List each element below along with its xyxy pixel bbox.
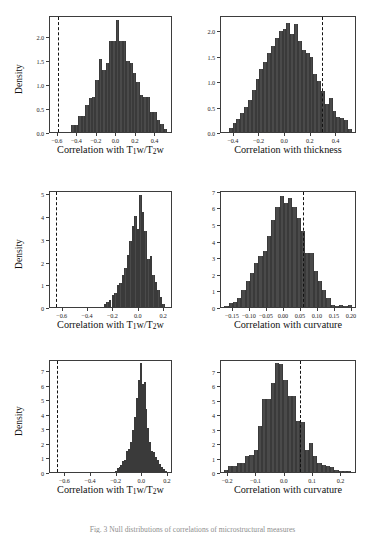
y-tick-label: 0.5 <box>23 106 44 113</box>
y-tick-mark <box>217 308 220 309</box>
x-tick-label: −0.6 <box>56 312 67 319</box>
y-tick-label: 0.0 <box>23 130 44 137</box>
panel-top-right: −0.4−0.20.00.20.40.00.51.01.52.0Correlat… <box>192 0 385 175</box>
histogram-bar <box>348 129 352 132</box>
y-tick-label: 4 <box>23 411 44 418</box>
panel-bottom-right: −0.2−0.10.00.10.201234567Correlation wit… <box>192 350 385 512</box>
y-tick-label: 4 <box>194 412 215 419</box>
y-tick-mark <box>46 444 49 445</box>
y-tick-label: 0 <box>194 470 215 477</box>
y-tick-label: 0 <box>194 305 215 312</box>
histogram-bar <box>348 305 352 307</box>
y-axis-title: Density <box>13 64 24 94</box>
x-tick-label: 0.0 <box>280 477 287 484</box>
y-tick-mark <box>46 371 49 372</box>
x-axis-title: Correlation with T1w/T2w <box>57 319 164 330</box>
y-tick-label: 2 <box>23 440 44 447</box>
y-tick-label: 4 <box>194 238 215 245</box>
y-tick-mark <box>46 458 49 459</box>
x-tick-mark <box>317 308 318 311</box>
x-tick-label: 0.0 <box>112 137 119 144</box>
x-tick-label: −0.2 <box>253 137 264 144</box>
y-tick-mark <box>217 258 220 259</box>
y-tick-label: 2 <box>23 259 44 266</box>
x-tick-label: −0.15 <box>225 312 239 319</box>
x-tick-mark <box>112 308 113 311</box>
x-tick-mark <box>62 308 63 311</box>
y-tick-label: 2.0 <box>23 34 44 41</box>
y-tick-mark <box>217 133 220 134</box>
y-tick-label: 1.5 <box>194 53 215 60</box>
y-axis-title: Density <box>13 239 24 269</box>
y-tick-mark <box>46 429 49 430</box>
y-tick-label: 5 <box>23 397 44 404</box>
x-tick-mark <box>266 308 267 311</box>
y-tick-label: 0.5 <box>194 104 215 111</box>
x-tick-mark <box>87 308 88 311</box>
x-tick-label: −0.6 <box>59 477 70 484</box>
y-tick-mark <box>46 263 49 264</box>
x-tick-label: 0.20 <box>346 312 356 319</box>
y-tick-label: 5 <box>194 222 215 229</box>
x-tick-label: 0.10 <box>312 312 322 319</box>
y-tick-mark <box>46 217 49 218</box>
y-tick-mark <box>46 308 49 309</box>
x-tick-mark <box>334 308 335 311</box>
y-tick-mark <box>46 133 49 134</box>
x-tick-mark <box>312 473 313 476</box>
x-tick-label: −0.10 <box>242 312 256 319</box>
histogram-bars <box>50 361 171 472</box>
plot-area-middle-left <box>49 191 172 308</box>
y-tick-mark <box>217 108 220 109</box>
y-tick-mark <box>217 430 220 431</box>
y-tick-label: 0 <box>23 470 44 477</box>
x-tick-mark <box>138 308 139 311</box>
x-tick-label: 0.0 <box>134 312 141 319</box>
y-tick-label: 0 <box>23 305 44 312</box>
x-axis-title: Correlation with curvature <box>234 319 342 330</box>
x-tick-label: 0.0 <box>138 477 145 484</box>
x-tick-mark <box>90 473 91 476</box>
x-tick-label: 0.05 <box>295 312 305 319</box>
x-tick-mark <box>64 473 65 476</box>
x-tick-label: −0.6 <box>51 137 62 144</box>
figure-panel-grid: −0.6−0.4−0.20.00.20.40.00.51.01.52.0Corr… <box>0 0 385 533</box>
x-tick-mark <box>76 133 77 136</box>
histogram-bars <box>221 361 355 472</box>
x-tick-mark <box>284 473 285 476</box>
y-tick-label: 1.0 <box>23 82 44 89</box>
y-tick-mark <box>217 275 220 276</box>
y-tick-mark <box>217 82 220 83</box>
x-tick-mark <box>163 308 164 311</box>
y-tick-label: 3 <box>194 426 215 433</box>
y-tick-label: 3 <box>23 236 44 243</box>
x-axis-title: Correlation with T1w/T2w <box>57 144 164 155</box>
x-tick-label: −0.1 <box>250 477 261 484</box>
y-tick-mark <box>217 459 220 460</box>
x-tick-mark <box>340 473 341 476</box>
histogram-bar <box>162 304 165 307</box>
x-axis-title: Correlation with thickness <box>234 144 342 155</box>
y-tick-mark <box>46 85 49 86</box>
x-tick-label: −0.2 <box>222 477 233 484</box>
y-tick-mark <box>217 444 220 445</box>
histogram-bar <box>165 471 167 472</box>
y-tick-label: 7 <box>194 368 215 375</box>
y-tick-mark <box>217 386 220 387</box>
y-tick-label: 7 <box>194 188 215 195</box>
histogram-bars <box>50 192 171 307</box>
x-tick-mark <box>167 473 168 476</box>
observed-value-line <box>56 192 57 307</box>
x-tick-mark <box>310 133 311 136</box>
x-tick-label: 0.2 <box>163 477 170 484</box>
y-tick-label: 2.0 <box>194 28 215 35</box>
y-tick-label: 4 <box>23 214 44 221</box>
y-tick-label: 1 <box>194 455 215 462</box>
x-tick-mark <box>227 473 228 476</box>
y-tick-mark <box>46 37 49 38</box>
y-tick-mark <box>217 473 220 474</box>
y-tick-label: 2 <box>194 271 215 278</box>
y-tick-label: 0.0 <box>194 130 215 137</box>
x-tick-label: 0.1 <box>308 477 315 484</box>
x-tick-label: −0.05 <box>259 312 273 319</box>
